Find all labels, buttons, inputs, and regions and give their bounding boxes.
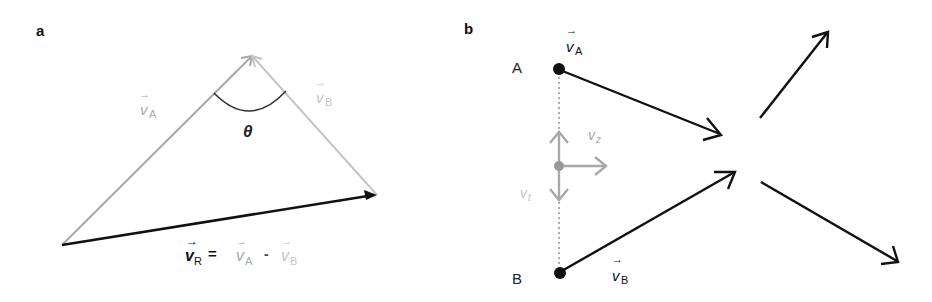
svg-text:B: B [325,96,332,108]
svg-text:A: A [245,255,253,267]
svg-text:→: → [139,88,150,100]
center-dot [554,161,564,171]
svg-text:→: → [236,235,247,247]
svg-text:v: v [236,247,245,264]
vector-r-line [62,195,374,245]
svg-text:v: v [281,247,290,264]
vector-a-line [62,57,251,245]
angle-arc [214,91,286,111]
svg-text:v: v [588,127,596,143]
svg-text:v: v [612,267,621,284]
panel-a-label: a [36,22,45,39]
svg-text:→: → [566,24,577,36]
svg-text:v: v [566,38,575,55]
svg-text:-: - [264,246,269,262]
svg-text:B: B [621,274,628,286]
svg-text:=: = [208,245,217,262]
incoming-arrow-a [560,70,720,134]
svg-text:B: B [290,255,297,267]
angle-theta-label: θ [243,122,253,141]
vector-b-label: → v B [315,76,332,108]
svg-text:A: A [575,45,583,57]
point-a-dot [553,63,565,75]
svg-text:A: A [149,108,157,120]
svg-text:v: v [316,89,325,106]
svg-text:v: v [140,101,149,118]
vector-a-label-b: → v A [566,24,583,57]
svg-text:→: → [186,234,198,248]
vz-label: v z [588,127,601,145]
svg-text:→: → [281,235,292,247]
panel-a: a θ → v A → v B → v R = → [36,22,377,267]
svg-text:z: z [595,134,601,145]
svg-text:→: → [612,253,623,265]
panel-b: b A B → v A → v B [464,20,898,287]
outgoing-arrow-down [761,182,897,261]
vector-b-label-b: → v B [612,253,628,286]
point-b-dot [554,267,566,279]
svg-text:R: R [194,255,202,267]
panel-b-label: b [464,20,473,37]
point-b-label: B [512,270,522,287]
diagram-canvas: a θ → v A → v B → v R = → [0,0,932,302]
svg-text:v: v [520,185,528,201]
svg-text:→: → [315,76,326,88]
point-a-label: A [512,59,522,76]
incoming-arrow-b [560,173,733,272]
vector-a-label: → v A [139,88,157,120]
vt-label: v t [520,185,532,203]
outgoing-arrow-down-head-icon [881,246,898,264]
outgoing-arrow-up [760,33,827,118]
formula-vr: → v R = → v A - → v B [185,234,297,267]
svg-text:t: t [528,192,532,203]
